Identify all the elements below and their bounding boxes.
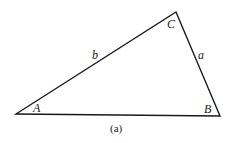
triangle-abc: [16, 12, 220, 116]
side-label-a: a: [198, 48, 204, 62]
vertex-label-a: A: [32, 101, 41, 115]
vertex-label-c: C: [167, 17, 176, 31]
triangle-diagram: A B C b a (a): [0, 0, 234, 143]
side-label-b: b: [92, 48, 98, 62]
vertex-label-b: B: [204, 102, 212, 116]
figure-caption: (a): [110, 122, 123, 135]
